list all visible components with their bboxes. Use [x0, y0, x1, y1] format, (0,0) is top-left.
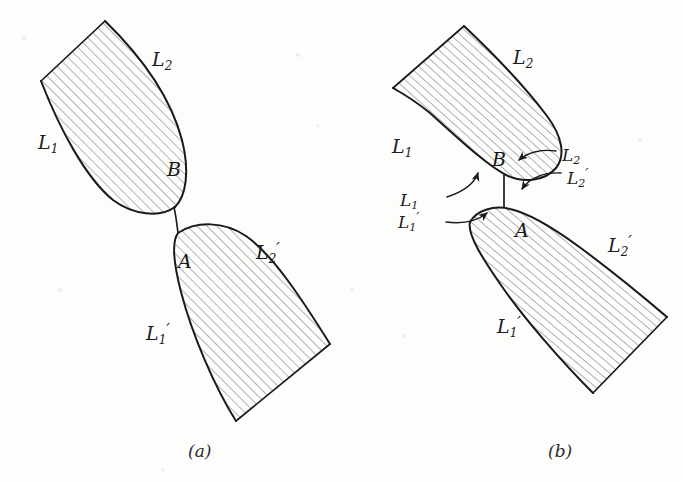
label-sub: 2 — [165, 59, 173, 73]
point-label-b-a: B — [167, 158, 181, 180]
label-prime: ′ — [628, 232, 632, 251]
point-label-a-a: A — [178, 250, 192, 272]
label-base: L — [400, 190, 411, 210]
label-L1-prime-lower-a: L1′ — [146, 324, 170, 343]
label-L1-upper-b: L1 — [392, 137, 412, 156]
label-L2-prime-lower-a: L2′ — [256, 243, 280, 262]
label-base: L — [513, 46, 526, 68]
label-sub: 1 — [51, 142, 59, 156]
panel-a-upper-body — [20, 10, 220, 240]
label-prime: ′ — [166, 320, 170, 339]
figure-page: L2 L1 L2′ L1′ B A L2 L1 L2 L2′ L1 L1′ L2… — [0, 0, 683, 481]
label-L2-upper-b: L2 — [513, 48, 533, 67]
label-L2-arrow-b: L2 — [562, 147, 580, 164]
panel-b-lower-body — [455, 198, 680, 403]
label-sub: 1 — [405, 146, 413, 160]
label-base: L — [562, 145, 573, 165]
label-L2-upper-a: L2 — [152, 50, 172, 69]
label-base: L — [398, 212, 409, 232]
label-L2-prime-lower-b: L2′ — [608, 236, 632, 255]
label-base: L — [38, 131, 51, 153]
label-prime: ′ — [276, 239, 280, 258]
caption-panel-b: (b) — [548, 441, 572, 461]
label-L1-prime-lower-b: L1′ — [497, 317, 521, 336]
label-sub: 2 — [526, 57, 534, 71]
figure-canvas — [0, 0, 683, 481]
arrow-L1 — [447, 173, 478, 197]
label-base: L — [392, 135, 405, 157]
label-base: L — [567, 168, 578, 188]
panel-a-neck — [174, 207, 178, 233]
label-sub: 2 — [573, 154, 580, 167]
label-base: L — [146, 322, 159, 344]
label-base: L — [152, 48, 165, 70]
caption-panel-a: (a) — [188, 441, 211, 461]
label-L1-arrow-b: L1 — [400, 192, 418, 209]
label-base: L — [608, 234, 621, 256]
label-L1-upper-a: L1 — [38, 133, 58, 152]
point-label-b-b: B — [492, 148, 506, 170]
label-base: L — [256, 241, 269, 263]
label-prime: ′ — [517, 313, 521, 332]
label-L2-prime-arrow-b: L2′ — [567, 170, 588, 187]
point-label-a-b: A — [515, 219, 529, 241]
label-base: L — [497, 315, 510, 337]
label-L1-prime-arrow-b: L1′ — [398, 214, 419, 231]
